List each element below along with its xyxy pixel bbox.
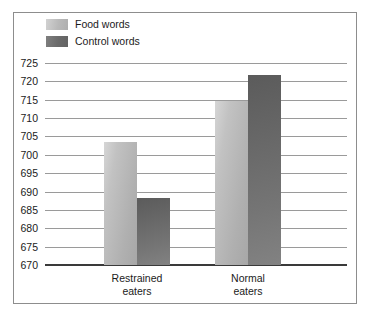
gridline (45, 247, 347, 248)
y-axis-tick-label: 700 (20, 150, 38, 160)
gridline (45, 100, 347, 101)
gridline (45, 81, 347, 82)
food-words-swatch-icon (46, 19, 68, 30)
gridline (45, 136, 347, 137)
gridline (45, 63, 347, 64)
y-axis-tick-label: 705 (20, 131, 38, 141)
control-words-swatch-icon (46, 36, 68, 47)
gridline (45, 155, 347, 156)
y-axis-tick-label: 715 (20, 95, 38, 105)
y-axis-tick-label: 720 (20, 76, 38, 86)
y-axis-tick-label: 680 (20, 223, 38, 233)
x-axis-category-label: Restrained eaters (87, 272, 187, 297)
gridline (45, 192, 347, 193)
bar-control-words (137, 198, 170, 265)
gridline (45, 228, 347, 229)
plot-area: 725720715710705700695690685680675670 (45, 63, 347, 265)
x-axis-baseline (45, 264, 347, 266)
y-axis-tick-label: 725 (20, 58, 38, 68)
gridline (45, 210, 347, 211)
x-axis-category-label: Normal eaters (198, 272, 298, 297)
y-axis-tick-label: 685 (20, 205, 38, 215)
gridline (45, 173, 347, 174)
bar-food-words (215, 101, 248, 265)
legend-item-food-words: Food words (46, 17, 196, 31)
y-axis-tick-label: 670 (20, 260, 38, 270)
bar-food-words (104, 142, 137, 265)
bar-control-words (248, 75, 281, 265)
y-axis-tick-label: 675 (20, 242, 38, 252)
chart-figure: Food words Control words 725720715710705… (0, 0, 370, 310)
legend-label-food-words: Food words (75, 18, 130, 30)
gridline (45, 118, 347, 119)
y-axis-tick-label: 695 (20, 168, 38, 178)
y-axis-tick-label: 690 (20, 187, 38, 197)
chart-legend: Food words Control words (46, 17, 196, 51)
legend-item-control-words: Control words (46, 34, 196, 48)
y-axis-tick-label: 710 (20, 113, 38, 123)
legend-label-control-words: Control words (75, 35, 140, 47)
